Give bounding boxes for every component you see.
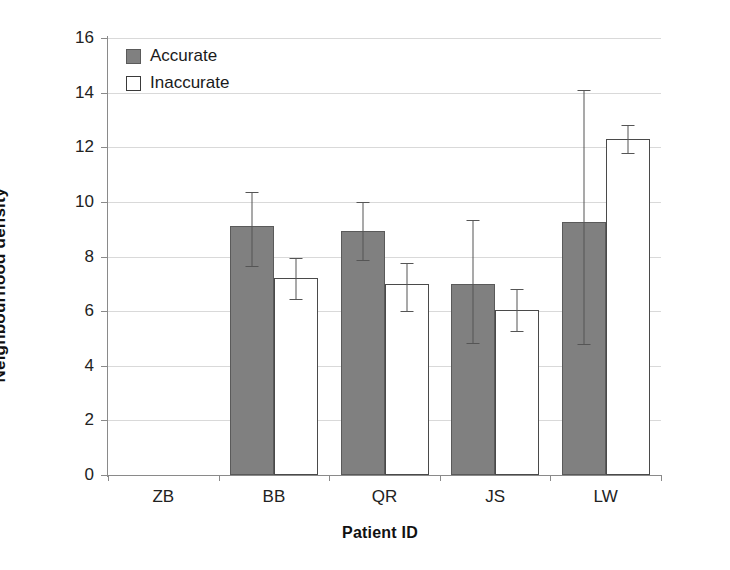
error-bar-cap-top — [511, 289, 524, 290]
error-bar-cap-bottom — [289, 299, 302, 300]
error-bar-js-accurate — [463, 220, 483, 344]
error-bar-cap-bottom — [356, 260, 369, 261]
y-axis-tick-label: 12 — [52, 137, 94, 157]
error-bar-bb-inaccurate — [286, 258, 306, 300]
x-axis-tick-mark — [550, 475, 551, 481]
legend-swatch-inaccurate-icon — [126, 76, 141, 91]
legend-item-accurate: Accurate — [126, 44, 229, 68]
error-bar-stem — [295, 258, 296, 300]
error-bar-cap-top — [400, 263, 413, 264]
y-axis-tick-labels: 0246810121416 — [52, 0, 94, 570]
x-axis-tick-mark — [329, 475, 330, 481]
x-axis-tick-mark — [440, 475, 441, 481]
error-bar-cap-bottom — [245, 266, 258, 267]
y-axis-tick-mark — [101, 420, 108, 421]
error-bar-stem — [517, 289, 518, 331]
x-axis-line — [107, 475, 662, 476]
y-axis-tick-mark — [101, 93, 108, 94]
legend-label-inaccurate: Inaccurate — [150, 73, 229, 93]
error-bar-bb-accurate — [242, 192, 262, 267]
y-axis-tick-mark — [101, 257, 108, 258]
y-axis-tick-label: 6 — [52, 301, 94, 321]
x-axis-tick-mark — [219, 475, 220, 481]
error-bar-cap-top — [245, 192, 258, 193]
bar-lw-inaccurate — [606, 139, 650, 475]
x-axis-tick-label-zb: ZB — [152, 487, 174, 507]
error-bar-cap-top — [356, 202, 369, 203]
gridline — [108, 38, 661, 39]
legend-swatch-accurate-icon — [126, 49, 141, 64]
error-bar-cap-bottom — [511, 331, 524, 332]
y-axis-tick-mark — [101, 38, 108, 39]
x-axis-title: Patient ID — [100, 524, 660, 542]
legend-item-inaccurate: Inaccurate — [126, 71, 229, 95]
legend-label-accurate: Accurate — [150, 46, 217, 66]
x-axis-tick-label-bb: BB — [263, 487, 286, 507]
error-bar-lw-inaccurate — [618, 125, 638, 154]
plot-area — [108, 38, 661, 475]
y-axis-tick-label: 2 — [52, 410, 94, 430]
error-bar-cap-top — [467, 220, 480, 221]
bar-qr-inaccurate — [385, 284, 429, 475]
error-bar-js-inaccurate — [507, 289, 527, 331]
error-bar-lw-accurate — [574, 90, 594, 345]
x-axis-tick-label-lw: LW — [594, 487, 618, 507]
bar-chart: Neighbourhood density 0246810121416 ZBBB… — [0, 0, 730, 570]
error-bar-cap-bottom — [577, 344, 590, 345]
error-bar-stem — [473, 220, 474, 344]
y-axis-tick-mark — [101, 147, 108, 148]
y-axis-tick-mark — [101, 475, 108, 476]
error-bar-cap-bottom — [467, 343, 480, 344]
x-axis-tick-mark — [661, 475, 662, 481]
error-bar-cap-top — [577, 90, 590, 91]
y-axis-tick-mark — [101, 366, 108, 367]
y-axis-tick-mark — [101, 202, 108, 203]
error-bar-cap-bottom — [400, 311, 413, 312]
error-bar-cap-top — [621, 125, 634, 126]
bar-js-inaccurate — [495, 310, 539, 475]
y-axis-tick-label: 10 — [52, 192, 94, 212]
y-axis-tick-label: 8 — [52, 247, 94, 267]
x-axis-tick-mark — [108, 475, 109, 481]
y-axis-tick-label: 16 — [52, 28, 94, 48]
bar-qr-accurate — [341, 231, 385, 475]
bar-bb-inaccurate — [274, 278, 318, 475]
y-axis-tick-label: 14 — [52, 83, 94, 103]
legend: Accurate Inaccurate — [126, 44, 229, 95]
error-bar-stem — [362, 202, 363, 261]
error-bar-cap-top — [289, 258, 302, 259]
error-bar-stem — [406, 263, 407, 312]
y-axis-tick-label: 0 — [52, 465, 94, 485]
error-bar-stem — [627, 125, 628, 154]
y-axis-tick-mark — [101, 311, 108, 312]
x-axis-tick-label-js: JS — [485, 487, 505, 507]
x-axis-tick-label-qr: QR — [372, 487, 398, 507]
error-bar-qr-inaccurate — [397, 263, 417, 312]
error-bar-stem — [251, 192, 252, 267]
error-bar-stem — [583, 90, 584, 345]
y-axis-tick-label: 4 — [52, 356, 94, 376]
error-bar-qr-accurate — [353, 202, 373, 261]
error-bar-cap-bottom — [621, 153, 634, 154]
